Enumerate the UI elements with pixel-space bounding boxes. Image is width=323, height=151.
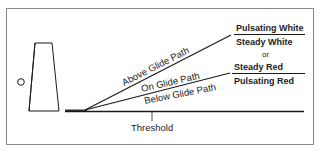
light-circle-icon	[18, 79, 25, 86]
pulsating-white-label: Pulsating White	[236, 23, 304, 33]
or-label: or	[262, 50, 269, 59]
approach-light-tower-icon	[29, 43, 59, 111]
pulsating-red-label: Pulsating Red	[234, 76, 294, 86]
threshold-label: Threshold	[131, 122, 173, 133]
glide-path-diagram: Above Glide Path On Glide Path Below Gli…	[0, 0, 323, 151]
steady-red-label: Steady Red	[234, 62, 283, 72]
steady-white-label: Steady White	[236, 37, 293, 47]
